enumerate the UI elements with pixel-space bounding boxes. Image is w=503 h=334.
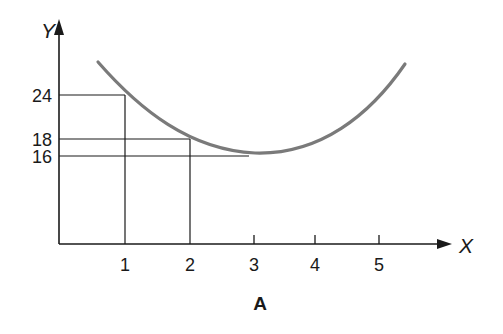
y-tick-label: 24 xyxy=(32,86,52,106)
x-tick-label: 5 xyxy=(374,255,384,275)
x-tick-label: 4 xyxy=(310,255,320,275)
x-tick-label: 3 xyxy=(249,255,259,275)
figure-caption: A xyxy=(253,293,267,314)
x-axis-label: X xyxy=(458,234,474,257)
x-tick-label: 1 xyxy=(120,255,130,275)
x-axis-arrow-icon xyxy=(437,239,452,249)
x-tick-label: 2 xyxy=(185,255,195,275)
y-tick-label: 16 xyxy=(32,147,52,167)
y-axis-label: Y xyxy=(41,19,57,42)
chart: 24 18 16 1 2 3 4 5 Y X A xyxy=(0,0,503,334)
y-axis-arrow-icon xyxy=(54,19,64,35)
